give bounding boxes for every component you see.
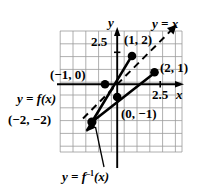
point-label-1-2: (1, 2) — [124, 33, 152, 46]
point-0-neg1 — [113, 93, 122, 102]
point-label-2-1: (2, 1) — [160, 61, 188, 74]
point-neg2-neg2 — [87, 117, 96, 126]
function-line-label: y = f(x) — [17, 92, 56, 105]
inverse-line-label-exponent: –1 — [86, 169, 94, 178]
x-tick-label-2point5: 2.5 — [152, 88, 168, 101]
point-2-1 — [150, 68, 159, 77]
y-axis-arrowhead — [114, 27, 120, 36]
y-axis-label: y — [108, 16, 114, 29]
y-tick-label-2point5: 2.5 — [91, 35, 107, 48]
identity-line-label: y = x — [152, 17, 178, 30]
point-1-2 — [128, 52, 137, 61]
inverse-line-label-prefix: y = f — [62, 169, 86, 184]
point-neg1-0 — [101, 80, 110, 89]
figure-container: y x 2.5 2.5 y = x y = f(x) (1, 2) (2, 1)… — [0, 0, 215, 196]
point-label-0-neg1: (0, −1) — [121, 107, 157, 120]
point-label-neg1-0: (−1, 0) — [50, 68, 86, 81]
x-axis-label: x — [176, 88, 183, 101]
point-label-neg2-neg2: (−2, −2) — [8, 113, 51, 126]
inverse-line-label: y = f–1(x) — [62, 170, 109, 183]
inverse-line-label-suffix: (x) — [94, 169, 109, 184]
